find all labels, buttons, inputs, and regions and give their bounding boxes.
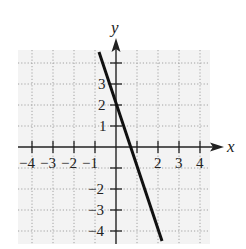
- x-axis-label: x: [226, 137, 235, 156]
- x-tick-label: 2: [154, 155, 162, 171]
- y-axis-label: y: [109, 18, 119, 37]
- y-tick-label: −4: [88, 223, 104, 239]
- x-tick-label: −2: [61, 155, 77, 171]
- y-tick-label: 2: [98, 97, 106, 113]
- x-tick-label: −3: [40, 155, 56, 171]
- y-tick-label: −2: [88, 181, 104, 197]
- y-tick-label: −3: [88, 202, 104, 218]
- x-tick-label: −4: [19, 155, 35, 171]
- coordinate-plane: x y −4 −3 −2 −1 2 3 4 3 2 1 −2 −3 −4: [0, 0, 246, 249]
- y-tick-label: 3: [98, 76, 106, 92]
- y-tick-label: 1: [99, 118, 107, 134]
- x-tick-label: 3: [175, 155, 183, 171]
- x-tick-label: −1: [82, 155, 98, 171]
- x-tick-label: 4: [196, 155, 204, 171]
